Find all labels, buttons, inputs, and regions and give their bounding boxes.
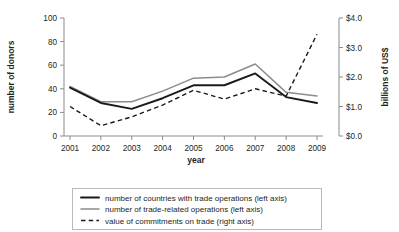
x-tick-label-2001: 2001 [61,144,80,153]
x-tick-label-2003: 2003 [123,144,142,153]
left-axis-title: number of donors [6,40,16,113]
left-axis-ticks [60,18,64,136]
x-tick-label-2006: 2006 [215,144,234,153]
right-axis-ticks [339,18,343,136]
left-axis-tick-labels: 020406080100 [43,14,57,141]
x-tick-label-2008: 2008 [277,144,296,153]
left-tick-label-100: 100 [43,14,57,23]
series-group [70,34,317,125]
left-tick-label-80: 80 [48,38,58,47]
x-axis-ticks [70,136,317,140]
left-tick-label-40: 40 [48,85,58,94]
x-tick-label-2004: 2004 [154,144,173,153]
right-tick-label-4: $4.0 [346,14,362,23]
right-axis-title: billions of US$ [380,47,390,106]
left-tick-label-20: 20 [48,108,58,117]
series-line-commitments-on-trade [70,34,317,125]
left-tick-label-0: 0 [52,132,57,141]
legend-label-countries-with-trade-operations: number of countries with trade operation… [105,194,287,203]
legend-item-countries-with-trade-operations[interactable]: number of countries with trade operation… [81,194,287,203]
x-tick-label-2005: 2005 [184,144,203,153]
right-tick-label-3: $3.0 [346,44,362,53]
legend: number of countries with trade operation… [73,189,322,230]
legend-label-trade-related-operations: number of trade-related operations (left… [105,205,263,214]
chart-figure: 020406080100 $0.0$1.0$2.0$3.0$4.0 200120… [0,0,399,232]
x-tick-label-2009: 2009 [308,144,327,153]
x-tick-label-2002: 2002 [92,144,111,153]
legend-label-commitments-on-trade: value of commitments on trade (right axi… [105,217,254,226]
axes-group [64,18,339,136]
x-axis-title: year [187,155,205,165]
right-tick-label-1: $1.0 [346,103,362,112]
x-axis-tick-labels: 200120022003200420052006200720082009 [61,144,327,153]
legend-item-commitments-on-trade[interactable]: value of commitments on trade (right axi… [81,217,254,226]
right-tick-label-0: $0.0 [346,132,362,141]
x-tick-label-2007: 2007 [246,144,265,153]
series-line-trade-related-operations [70,64,317,102]
right-axis-tick-labels: $0.0$1.0$2.0$3.0$4.0 [346,14,362,141]
legend-item-trade-related-operations[interactable]: number of trade-related operations (left… [81,205,263,214]
right-tick-label-2: $2.0 [346,73,362,82]
left-tick-label-60: 60 [48,61,58,70]
